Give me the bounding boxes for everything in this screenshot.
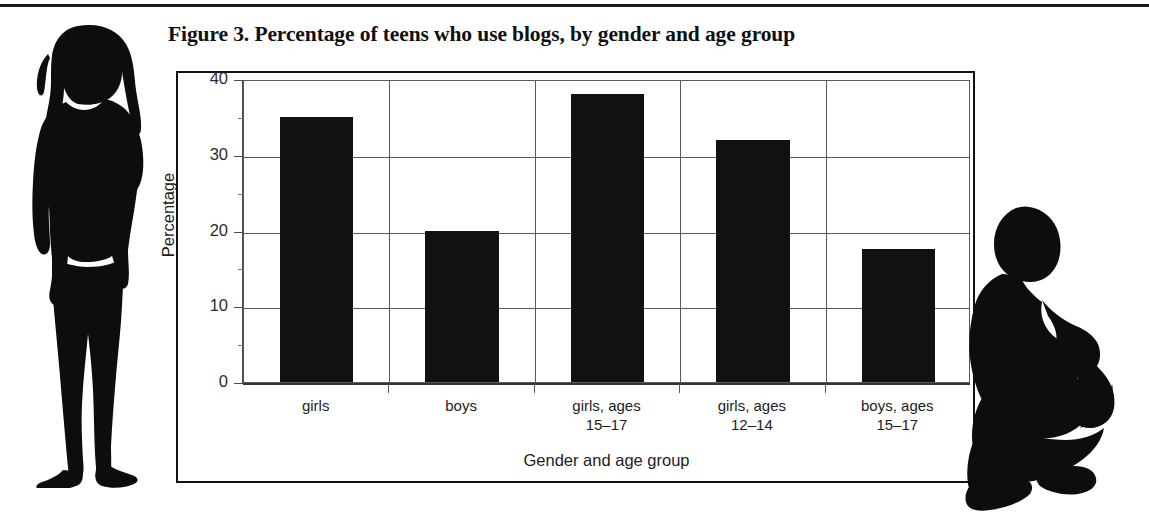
y-tick-label-10: 10	[188, 296, 228, 315]
y-tick-0	[234, 383, 243, 384]
y-tick-label-0: 0	[188, 372, 228, 391]
standing-teen-girl-silhouette-icon	[8, 18, 178, 488]
bar-0	[280, 117, 353, 382]
figure-title: Figure 3. Percentage of teens who use bl…	[168, 22, 968, 47]
y-tick-40	[234, 80, 243, 81]
bar-1	[425, 231, 498, 383]
category-separator-3	[680, 81, 681, 382]
category-separator-2	[535, 81, 536, 382]
x-tick-1	[388, 384, 389, 393]
top-divider-rule	[0, 4, 1149, 7]
bar-3	[716, 140, 789, 382]
category-separator-4	[826, 81, 827, 382]
x-tick-2	[534, 384, 535, 393]
y-axis-title: Percentage	[159, 173, 178, 257]
crouching-teen-boy-silhouette-icon	[930, 192, 1145, 512]
y-tick-label-30: 30	[188, 145, 228, 164]
x-category-label-2: girls, ages 15–17	[534, 396, 679, 434]
x-category-label-3: girls, ages 12–14	[679, 396, 824, 434]
x-axis-title: Gender and age group	[243, 451, 970, 470]
category-separator-1	[389, 81, 390, 382]
x-category-label-0: girls	[243, 396, 388, 415]
y-tick-20	[234, 232, 243, 233]
bar-2	[571, 94, 644, 382]
plot-area	[243, 80, 970, 383]
bar-4	[862, 249, 935, 382]
y-tick-10	[234, 307, 243, 308]
y-tick-30	[234, 156, 243, 157]
y-tick-label-40: 40	[188, 69, 228, 88]
x-category-label-1: boys	[388, 396, 533, 415]
x-tick-4	[825, 384, 826, 393]
x-axis-line	[243, 383, 970, 385]
y-tick-label-20: 20	[188, 221, 228, 240]
x-tick-3	[679, 384, 680, 393]
